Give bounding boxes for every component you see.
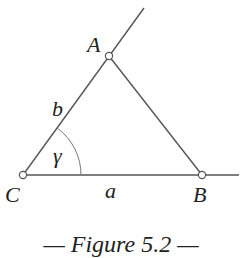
vertex-b-label: B bbox=[193, 182, 206, 207]
triangle-figure: A B C a b γ — Figure 5.2 — bbox=[0, 0, 242, 258]
vertex-a-point bbox=[105, 52, 112, 59]
vertex-a-label: A bbox=[85, 32, 101, 57]
vertex-b-point bbox=[198, 171, 205, 178]
side-ab bbox=[109, 56, 202, 175]
vertex-c-point bbox=[19, 171, 26, 178]
side-a-label: a bbox=[105, 178, 116, 203]
angle-gamma-label: γ bbox=[53, 143, 63, 168]
vertex-c-label: C bbox=[5, 182, 20, 207]
line-ca-extended bbox=[23, 8, 144, 175]
side-b-label: b bbox=[52, 96, 63, 121]
figure-caption: — Figure 5.2 — bbox=[42, 231, 199, 257]
